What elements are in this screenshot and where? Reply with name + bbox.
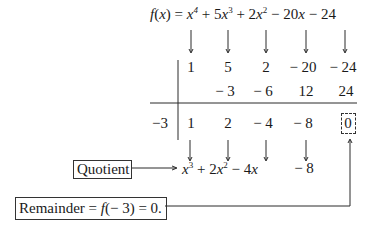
product-4: 12 (299, 84, 314, 99)
result-remainder: 0 (344, 116, 352, 131)
product-5: 24 (339, 84, 354, 99)
result-1: 1 (187, 116, 195, 131)
coefficient-1: 1 (187, 60, 195, 75)
coefficient-2: 5 (224, 60, 232, 75)
coefficient-3: 2 (262, 60, 270, 75)
quotient-constant: − 8 (294, 161, 314, 176)
result-3: − 4 (253, 116, 273, 131)
coefficient-4: − 20 (289, 60, 316, 75)
result-4: − 8 (293, 116, 313, 131)
quotient-label: Quotient (77, 162, 130, 177)
product-3: − 6 (253, 84, 273, 99)
product-2: − 3 (215, 84, 235, 99)
quotient-expression: x3 + 2x2 − 4x (182, 161, 258, 177)
divisor: −3 (152, 116, 168, 131)
remainder-label: Remainder = f(− 3) = 0. (19, 201, 162, 216)
result-2: 2 (224, 116, 232, 131)
coefficient-5: − 24 (329, 60, 356, 75)
